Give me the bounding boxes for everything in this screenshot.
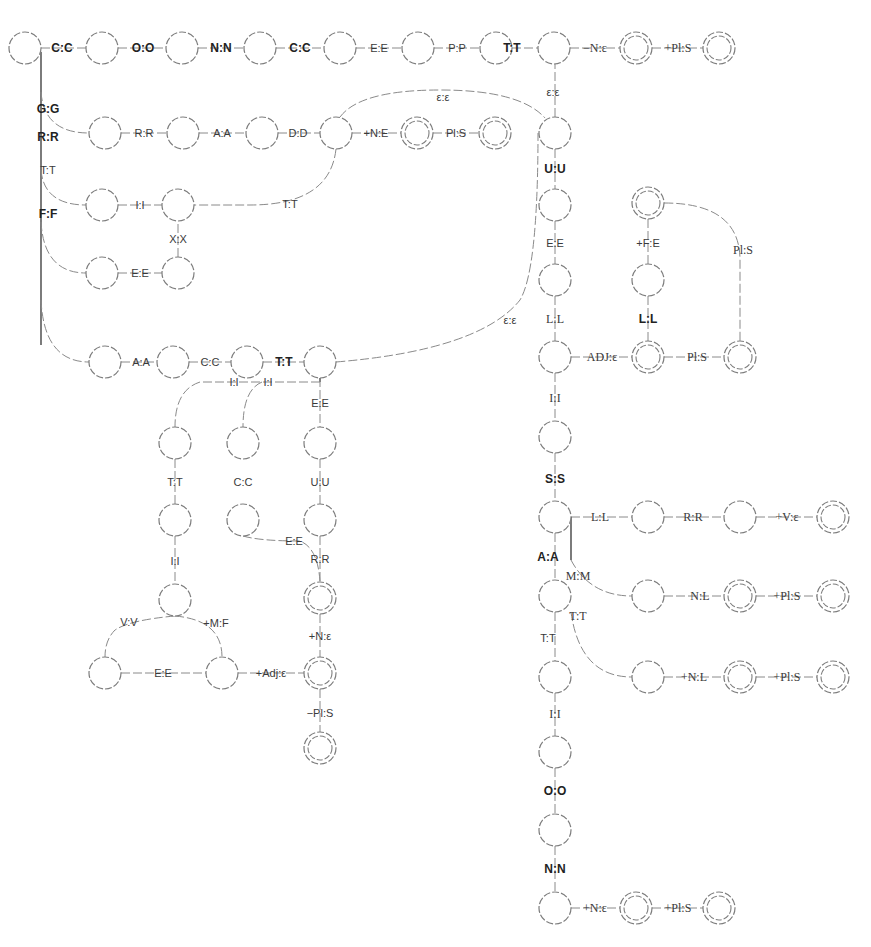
- edge-label: +N:E: [364, 127, 389, 139]
- edge-label: T:T: [569, 609, 587, 623]
- edge-label: +Adj:ε: [256, 667, 286, 679]
- state-node: [304, 504, 336, 536]
- transition-edge: [175, 382, 320, 427]
- edge-label: C:C: [234, 476, 253, 488]
- transition-edge: [243, 382, 262, 427]
- edge-label: T:T: [40, 164, 56, 176]
- state-node: [89, 346, 121, 378]
- state-node: [632, 580, 664, 612]
- edge-label: T:T: [275, 355, 293, 369]
- edge-label: E:E: [546, 237, 564, 249]
- edge-label: U:U: [311, 476, 330, 488]
- transition-labels: C:C O:O N:N C:C E:E P:P T:T −N:ε +Pl:S G…: [37, 41, 801, 915]
- transition-edge: [194, 149, 336, 205]
- edge-label: +N:L: [681, 670, 707, 684]
- edge-label: Pl:S: [446, 127, 466, 139]
- state-node: [159, 427, 191, 459]
- edge-label: A:A: [132, 356, 150, 368]
- state-node: [86, 257, 118, 289]
- edge-label: U:U: [544, 162, 565, 176]
- state-node: [244, 32, 276, 64]
- edge-label: R:R: [37, 130, 59, 144]
- state-node: [539, 341, 571, 373]
- final-state-node: [304, 582, 336, 614]
- final-state-node: [479, 117, 511, 149]
- edge-label: ε:ε: [547, 86, 560, 98]
- state-node: [159, 504, 191, 536]
- state-node: [539, 814, 571, 846]
- edge-label: −Pl:S: [307, 707, 334, 719]
- edge-label: +N:ε: [583, 901, 607, 915]
- edge-label: ε:ε: [437, 91, 450, 103]
- edge-label: S:S: [545, 472, 565, 486]
- state-node: [304, 427, 336, 459]
- edge-label: E:E: [285, 535, 303, 547]
- edge-label: I:I: [263, 376, 272, 388]
- state-node: [632, 501, 664, 533]
- edges: [41, 48, 817, 908]
- state-node: [9, 32, 41, 64]
- edge-label: +Pl:S: [665, 41, 692, 55]
- state-node: [402, 32, 434, 64]
- edge-label: N:N: [210, 41, 231, 55]
- final-state-node: [703, 892, 735, 924]
- final-state-node: [632, 187, 664, 219]
- edge-label: +N:ε: [309, 630, 331, 642]
- state-node: [320, 117, 352, 149]
- transition-edge: [664, 203, 740, 341]
- final-state-node: [724, 341, 756, 373]
- edge-label: F:F: [39, 207, 58, 221]
- edge-label: E:E: [370, 42, 388, 54]
- state-node: [227, 427, 259, 459]
- edge-label: N:L: [690, 589, 709, 603]
- state-nodes: [9, 32, 849, 924]
- edge-label: T:T: [282, 198, 298, 210]
- final-state-node: [620, 32, 652, 64]
- state-node: [632, 661, 664, 693]
- transition-edge: [41, 300, 89, 362]
- edge-label: E:E: [154, 667, 172, 679]
- edge-label: E:E: [131, 267, 149, 279]
- state-node: [539, 661, 571, 693]
- edge-label: M:M: [566, 569, 591, 583]
- edge-label: E:E: [311, 397, 329, 409]
- edge-label: I:I: [549, 707, 560, 721]
- state-node: [167, 117, 199, 149]
- final-state-node: [703, 32, 735, 64]
- state-node: [86, 32, 118, 64]
- edge-label: O:O: [132, 41, 155, 55]
- state-node: [539, 736, 571, 768]
- final-state-node: [817, 580, 849, 612]
- edge-label: N:N: [544, 862, 565, 876]
- transition-edge: [105, 616, 175, 657]
- edge-label: T:T: [540, 632, 556, 644]
- state-node: [539, 580, 571, 612]
- edge-label: C:C: [201, 356, 220, 368]
- final-state-node: [724, 661, 756, 693]
- final-state-node: [304, 657, 336, 689]
- transition-edge: [243, 536, 320, 582]
- state-node: [162, 189, 194, 221]
- edge-label: O:O: [544, 784, 567, 798]
- edge-label: I:I: [170, 555, 179, 567]
- state-node: [157, 346, 189, 378]
- edge-label: +Pl:S: [774, 670, 801, 684]
- edge-label: Pl:S: [733, 243, 753, 257]
- state-node: [539, 892, 571, 924]
- state-node: [538, 32, 570, 64]
- edge-label: I:I: [135, 199, 144, 211]
- edge-label: −N:ε: [583, 41, 607, 55]
- edge-label: ADJ:ε: [587, 350, 617, 364]
- edge-label: ε:ε: [504, 314, 517, 326]
- state-node: [539, 264, 571, 296]
- state-node: [539, 189, 571, 221]
- edge-label: +V:ε: [776, 510, 799, 524]
- final-state-node: [817, 661, 849, 693]
- edge-label: I:I: [549, 391, 560, 405]
- state-node: [206, 657, 238, 689]
- edge-label: A:A: [537, 550, 559, 564]
- edge-label: V:V: [120, 616, 138, 628]
- final-state-node: [632, 341, 664, 373]
- edge-label: A:A: [213, 127, 231, 139]
- edge-label: P:P: [448, 42, 466, 54]
